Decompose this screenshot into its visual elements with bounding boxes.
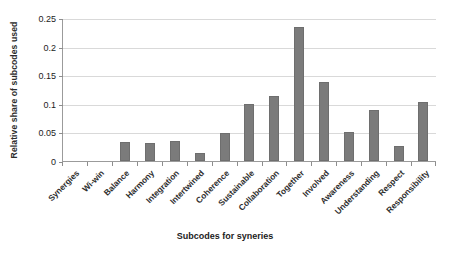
bar-slot xyxy=(361,19,386,161)
bar-slot xyxy=(162,19,187,161)
x-label-slot: Responsibility xyxy=(411,166,436,228)
bar[interactable] xyxy=(319,82,329,161)
y-tick-label: 0.1 xyxy=(43,100,56,110)
bar-slot xyxy=(336,19,361,161)
bar-slot xyxy=(212,19,237,161)
bar[interactable] xyxy=(170,141,180,161)
x-axis-label: Synergies xyxy=(46,168,81,203)
bars-container xyxy=(63,19,436,161)
y-axis-title: Relative share of subcodes used xyxy=(2,0,26,180)
bar-slot xyxy=(138,19,163,161)
x-label-slot: Synergies xyxy=(62,166,87,228)
bar[interactable] xyxy=(244,104,254,161)
bar-slot xyxy=(88,19,113,161)
bar[interactable] xyxy=(195,153,205,161)
bar-slot xyxy=(287,19,312,161)
bar[interactable] xyxy=(145,143,155,161)
bar[interactable] xyxy=(120,142,130,161)
bar-slot xyxy=(237,19,262,161)
bar[interactable] xyxy=(394,146,404,161)
bar-slot xyxy=(63,19,88,161)
bar[interactable] xyxy=(418,102,428,161)
y-axis-title-label: Relative share of subcodes used xyxy=(9,22,19,159)
plot-area xyxy=(62,19,436,162)
bar[interactable] xyxy=(269,96,279,161)
y-tick-label: 0 xyxy=(51,157,56,167)
bar-slot xyxy=(312,19,337,161)
x-axis-title: Subcodes for syneries xyxy=(0,231,450,241)
bar-slot xyxy=(386,19,411,161)
bar[interactable] xyxy=(369,110,379,161)
y-axis-tick-labels: 00.050.10.150.20.25 xyxy=(24,19,60,162)
y-tick-label: 0.25 xyxy=(38,14,56,24)
y-tick-label: 0.05 xyxy=(38,128,56,138)
bar-slot xyxy=(411,19,436,161)
y-tick-label: 0.15 xyxy=(38,71,56,81)
bar-slot xyxy=(262,19,287,161)
bar[interactable] xyxy=(220,133,230,161)
x-axis-category-labels: SynergiesWi-winBalanceHarmonyIntegration… xyxy=(62,166,436,228)
bar-chart: Relative share of subcodes used 00.050.1… xyxy=(0,0,450,257)
bar[interactable] xyxy=(344,132,354,161)
y-tick-label: 0.2 xyxy=(43,43,56,53)
bar-slot xyxy=(113,19,138,161)
bar[interactable] xyxy=(294,27,304,161)
bar-slot xyxy=(187,19,212,161)
